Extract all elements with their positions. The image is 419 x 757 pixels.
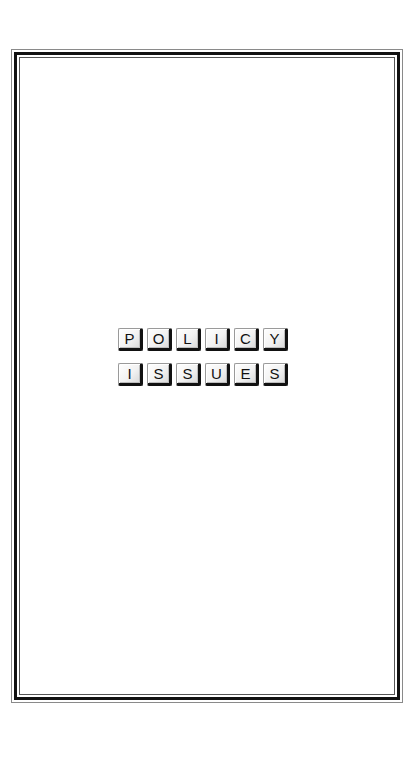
letter-key: I xyxy=(118,363,143,386)
letter-key: C xyxy=(234,328,259,351)
section-title: P O L I C Y I S S U E S xyxy=(118,328,308,398)
letter-key: Y xyxy=(263,328,288,351)
title-line-issues: I S S U E S xyxy=(118,363,308,386)
letter-key: S xyxy=(176,363,201,386)
letter-key: U xyxy=(205,363,230,386)
title-line-policy: P O L I C Y xyxy=(118,328,308,351)
letter-key: S xyxy=(263,363,288,386)
letter-key: L xyxy=(176,328,201,351)
letter-key: S xyxy=(147,363,172,386)
letter-key: O xyxy=(147,328,172,351)
letter-key: P xyxy=(118,328,143,351)
letter-key: I xyxy=(205,328,230,351)
letter-key: E xyxy=(234,363,259,386)
